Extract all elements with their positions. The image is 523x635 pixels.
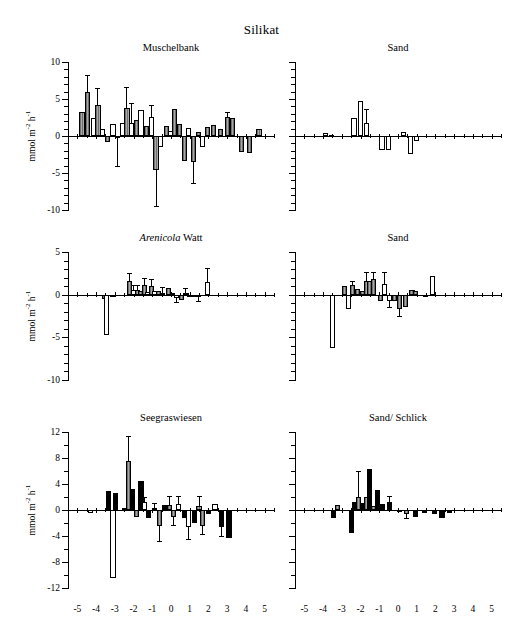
error-bar-cap bbox=[135, 285, 140, 286]
error-bar-cap bbox=[126, 436, 131, 437]
y-tick-label: 0 bbox=[55, 505, 60, 515]
x-tick-major bbox=[398, 134, 399, 139]
y-tick-minor bbox=[291, 269, 296, 270]
error-bar-cap bbox=[124, 87, 129, 88]
y-tick-minor bbox=[291, 166, 296, 167]
x-tick-major bbox=[265, 134, 266, 139]
bar bbox=[414, 136, 419, 141]
error-bar bbox=[131, 103, 132, 123]
x-tick-major bbox=[454, 508, 455, 513]
x-tick-major bbox=[454, 292, 455, 297]
y-tick-major bbox=[289, 252, 296, 253]
y-tick-minor bbox=[64, 329, 69, 330]
x-tick-label: 3 bbox=[452, 604, 457, 614]
error-bar bbox=[373, 272, 374, 279]
bar bbox=[239, 136, 244, 152]
x-tick-label: 2 bbox=[206, 604, 211, 614]
x-tick-minor bbox=[482, 293, 483, 297]
y-tick-label: -5 bbox=[52, 332, 60, 342]
x-tick-label: 5 bbox=[489, 604, 494, 614]
x-tick-label: -1 bbox=[375, 604, 383, 614]
y-tick-minor bbox=[64, 320, 69, 321]
bar bbox=[191, 136, 196, 162]
y-tick-minor bbox=[64, 121, 69, 122]
y-tick-minor bbox=[291, 121, 296, 122]
y-tick-minor bbox=[291, 320, 296, 321]
y-tick-minor bbox=[64, 143, 69, 144]
error-bar-cap bbox=[85, 75, 90, 76]
y-tick-minor bbox=[291, 354, 296, 355]
x-tick-major bbox=[77, 508, 78, 513]
bar bbox=[364, 123, 369, 136]
x-tick-major bbox=[492, 134, 493, 139]
bar bbox=[79, 112, 84, 136]
error-bar-cap bbox=[191, 183, 196, 184]
bar bbox=[230, 118, 235, 137]
x-tick-minor bbox=[295, 293, 296, 297]
bar bbox=[432, 510, 437, 514]
figure-root: Silikat Muschelbankmmol m-2 h-11050-5-10… bbox=[0, 0, 523, 635]
y-tick-label: -10 bbox=[47, 205, 60, 215]
error-bar-cap bbox=[160, 287, 165, 288]
bar bbox=[447, 510, 452, 513]
y-tick-label: -10 bbox=[47, 375, 60, 385]
x-tick-label: 0 bbox=[396, 604, 401, 614]
y-tick-major bbox=[289, 99, 296, 100]
y-tick-major bbox=[62, 588, 69, 589]
error-bar bbox=[202, 526, 203, 534]
bar bbox=[142, 502, 147, 510]
error-bar-cap bbox=[157, 541, 162, 542]
x-tick-label: -1 bbox=[148, 604, 156, 614]
bar bbox=[225, 117, 230, 136]
y-tick-major bbox=[289, 173, 296, 174]
y-tick-minor bbox=[291, 575, 296, 576]
bar bbox=[138, 110, 143, 136]
bar bbox=[179, 295, 184, 300]
x-tick-major bbox=[492, 292, 493, 297]
panel-sand-middle: Sand bbox=[295, 252, 501, 380]
bar bbox=[403, 295, 408, 308]
y-tick-minor bbox=[291, 371, 296, 372]
y-tick-major bbox=[289, 562, 296, 563]
error-bar bbox=[151, 105, 152, 117]
bar bbox=[149, 117, 154, 136]
y-tick-minor bbox=[291, 346, 296, 347]
error-bar-cap bbox=[364, 272, 369, 273]
bar bbox=[192, 510, 197, 523]
x-tick-minor bbox=[237, 134, 238, 138]
x-tick-major bbox=[435, 292, 436, 297]
y-axis-title: mmol m-2 h-1 bbox=[24, 291, 37, 342]
error-bar-cap bbox=[95, 88, 100, 89]
error-bar bbox=[169, 496, 170, 505]
y-tick-major bbox=[62, 173, 69, 174]
bar bbox=[226, 510, 231, 538]
x-tick-minor bbox=[68, 293, 69, 297]
bar bbox=[378, 295, 383, 301]
bar bbox=[401, 132, 406, 136]
y-tick-minor bbox=[291, 286, 296, 287]
bar bbox=[256, 129, 261, 136]
error-bar-cap bbox=[115, 166, 120, 167]
bar bbox=[342, 286, 347, 295]
error-bar bbox=[151, 279, 152, 286]
error-bar-cap bbox=[371, 272, 376, 273]
bar bbox=[382, 284, 387, 294]
x-tick-minor bbox=[255, 508, 256, 512]
y-tick-minor bbox=[64, 471, 69, 472]
x-tick-minor bbox=[370, 134, 371, 138]
y-tick-minor bbox=[291, 129, 296, 130]
bar bbox=[200, 136, 205, 147]
bar bbox=[106, 491, 111, 511]
y-tick-minor bbox=[291, 92, 296, 93]
x-tick-label: -2 bbox=[130, 604, 138, 614]
x-tick-minor bbox=[314, 508, 315, 512]
y-tick-minor bbox=[64, 69, 69, 70]
y-tick-minor bbox=[291, 143, 296, 144]
x-tick-minor bbox=[274, 293, 275, 297]
panel-title: Muschelbank bbox=[68, 42, 274, 53]
error-bar-cap bbox=[154, 206, 159, 207]
error-bar bbox=[366, 272, 367, 281]
panel-title: Sand/ Schlick bbox=[295, 412, 501, 423]
bar bbox=[329, 135, 334, 137]
error-bar-cap bbox=[152, 503, 157, 504]
